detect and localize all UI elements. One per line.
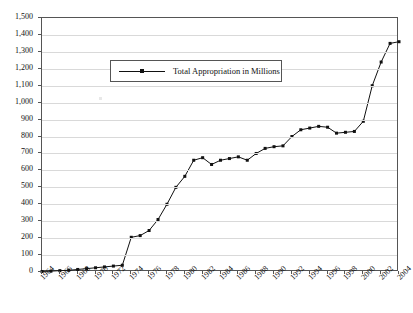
data-point-marker bbox=[299, 128, 302, 131]
gridline bbox=[42, 35, 397, 36]
data-point-marker bbox=[94, 266, 97, 269]
data-point-marker bbox=[380, 61, 383, 64]
y-axis-tick-mark bbox=[38, 34, 41, 35]
y-axis-tick-mark bbox=[38, 169, 41, 170]
data-point-marker bbox=[344, 131, 347, 134]
data-point-marker bbox=[192, 159, 195, 162]
y-axis-tick-label: 800 bbox=[0, 132, 33, 140]
data-point-marker bbox=[335, 132, 338, 135]
data-point-marker bbox=[210, 163, 213, 166]
y-axis-tick-mark bbox=[38, 220, 41, 221]
y-axis-tick-label: 1,000 bbox=[0, 98, 33, 106]
data-point-marker bbox=[264, 147, 267, 150]
data-point-marker bbox=[317, 125, 320, 128]
legend-marker-icon bbox=[140, 69, 144, 73]
data-point-marker bbox=[201, 156, 204, 159]
y-axis-tick-mark bbox=[38, 102, 41, 103]
y-axis-tick-label: 700 bbox=[0, 148, 33, 156]
gridline bbox=[42, 153, 397, 154]
y-axis-tick-label: 1,400 bbox=[0, 30, 33, 38]
y-axis-tick-mark bbox=[38, 152, 41, 153]
y-axis-tick-label: 400 bbox=[0, 199, 33, 207]
y-axis-tick-mark bbox=[38, 203, 41, 204]
gridline bbox=[42, 255, 397, 256]
data-point-marker bbox=[273, 145, 276, 148]
chart-legend: Total Appropriation in Millions bbox=[110, 60, 282, 82]
data-point-marker bbox=[219, 159, 222, 162]
data-point-marker bbox=[228, 157, 231, 160]
gridline bbox=[42, 52, 397, 53]
y-axis-tick-mark bbox=[38, 186, 41, 187]
y-axis-tick-mark bbox=[38, 51, 41, 52]
data-point-marker bbox=[139, 234, 142, 237]
plot-area bbox=[41, 17, 398, 271]
data-point-marker bbox=[246, 159, 249, 162]
y-axis-tick-label: 1,200 bbox=[0, 64, 33, 72]
data-point-marker bbox=[353, 130, 356, 133]
data-point-marker bbox=[183, 175, 186, 178]
y-axis-tick-label: 600 bbox=[0, 165, 33, 173]
data-point-marker bbox=[112, 265, 115, 268]
data-point-marker bbox=[398, 40, 401, 43]
y-axis-tick-label: 1,100 bbox=[0, 81, 33, 89]
gridline bbox=[42, 120, 397, 121]
y-axis-tick-mark bbox=[38, 136, 41, 137]
gridline bbox=[42, 221, 397, 222]
y-axis-tick-mark bbox=[38, 254, 41, 255]
data-point-marker bbox=[389, 42, 392, 45]
gridline bbox=[42, 238, 397, 239]
y-axis-tick-label: 200 bbox=[0, 233, 33, 241]
gridline bbox=[42, 86, 397, 87]
scan-artifact bbox=[99, 97, 102, 100]
y-axis-tick-mark bbox=[38, 68, 41, 69]
y-axis-tick-mark bbox=[38, 17, 41, 18]
y-axis-tick-mark bbox=[38, 237, 41, 238]
gridline bbox=[42, 170, 397, 171]
y-axis-tick-label: 1,300 bbox=[0, 47, 33, 55]
y-axis-tick-label: 500 bbox=[0, 182, 33, 190]
series-line-chart bbox=[42, 18, 399, 272]
y-axis-tick-mark bbox=[38, 85, 41, 86]
y-axis-tick-label: 900 bbox=[0, 115, 33, 123]
data-point-marker bbox=[237, 155, 240, 158]
legend-label: Total Appropriation in Millions bbox=[173, 66, 280, 77]
y-axis-tick-label: 300 bbox=[0, 216, 33, 224]
data-point-marker bbox=[308, 127, 311, 130]
gridline bbox=[42, 187, 397, 188]
data-point-marker bbox=[148, 229, 151, 232]
y-axis-tick-label: 1,500 bbox=[0, 13, 33, 21]
y-axis-tick-mark bbox=[38, 119, 41, 120]
data-point-marker bbox=[281, 144, 284, 147]
data-point-marker bbox=[326, 126, 329, 129]
gridline bbox=[42, 204, 397, 205]
gridline bbox=[42, 103, 397, 104]
y-axis-tick-label: 0 bbox=[0, 267, 33, 275]
gridline bbox=[42, 137, 397, 138]
y-axis-tick-label: 100 bbox=[0, 250, 33, 258]
